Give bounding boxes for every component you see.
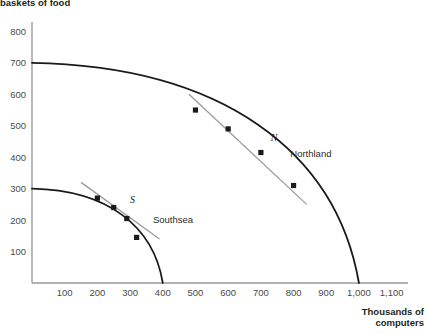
annotation-n: N: [270, 132, 279, 143]
chart-canvas: 1002003004005006007008009001,0001,100100…: [0, 0, 427, 335]
y-tick-label: 200: [10, 215, 26, 226]
ppf-chart: baskets of food Thousands of computers 1…: [0, 0, 427, 335]
annotation-layer: NNorthlandSSouthsea: [130, 132, 331, 225]
data-point-northland: [193, 107, 198, 112]
annotation-s: S: [130, 194, 135, 205]
data-point-northland: [258, 150, 263, 155]
tangent-line-layer: [81, 94, 307, 239]
x-tick-label: 500: [188, 287, 204, 298]
data-point-northland: [291, 183, 296, 188]
tangent-line-southsea: [81, 182, 159, 239]
x-tick-label: 900: [318, 287, 334, 298]
data-point-southsea: [134, 235, 139, 240]
y-tick-label: 300: [10, 183, 26, 194]
annotation-northland: Northland: [290, 148, 331, 159]
x-tick-label: 400: [155, 287, 171, 298]
y-tick-label: 400: [10, 152, 26, 163]
y-tick-label: 800: [10, 26, 26, 37]
tick-label-layer: 1002003004005006007008009001,0001,100100…: [10, 26, 403, 298]
x-tick-label: 300: [122, 287, 138, 298]
y-tick-label: 500: [10, 120, 26, 131]
ppf-curve-northland: [32, 63, 359, 283]
x-tick-label: 700: [253, 287, 269, 298]
data-point-southsea: [95, 195, 100, 200]
data-point-northland: [226, 126, 231, 131]
x-tick-label: 1,100: [380, 287, 404, 298]
data-point-southsea: [111, 205, 116, 210]
annotation-southsea: Southsea: [153, 214, 194, 225]
x-tick-label: 1,000: [347, 287, 371, 298]
data-point-southsea: [124, 216, 129, 221]
x-tick-label: 100: [57, 287, 73, 298]
axis-layer: [32, 22, 408, 283]
data-point-layer: [95, 107, 296, 240]
ppf-curve-layer: [32, 63, 359, 283]
y-tick-label: 600: [10, 89, 26, 100]
x-tick-label: 200: [89, 287, 105, 298]
ppf-curve-southsea: [32, 189, 163, 283]
y-tick-label: 100: [10, 246, 26, 257]
x-tick-label: 800: [286, 287, 302, 298]
x-tick-label: 600: [220, 287, 236, 298]
y-tick-label: 700: [10, 57, 26, 68]
